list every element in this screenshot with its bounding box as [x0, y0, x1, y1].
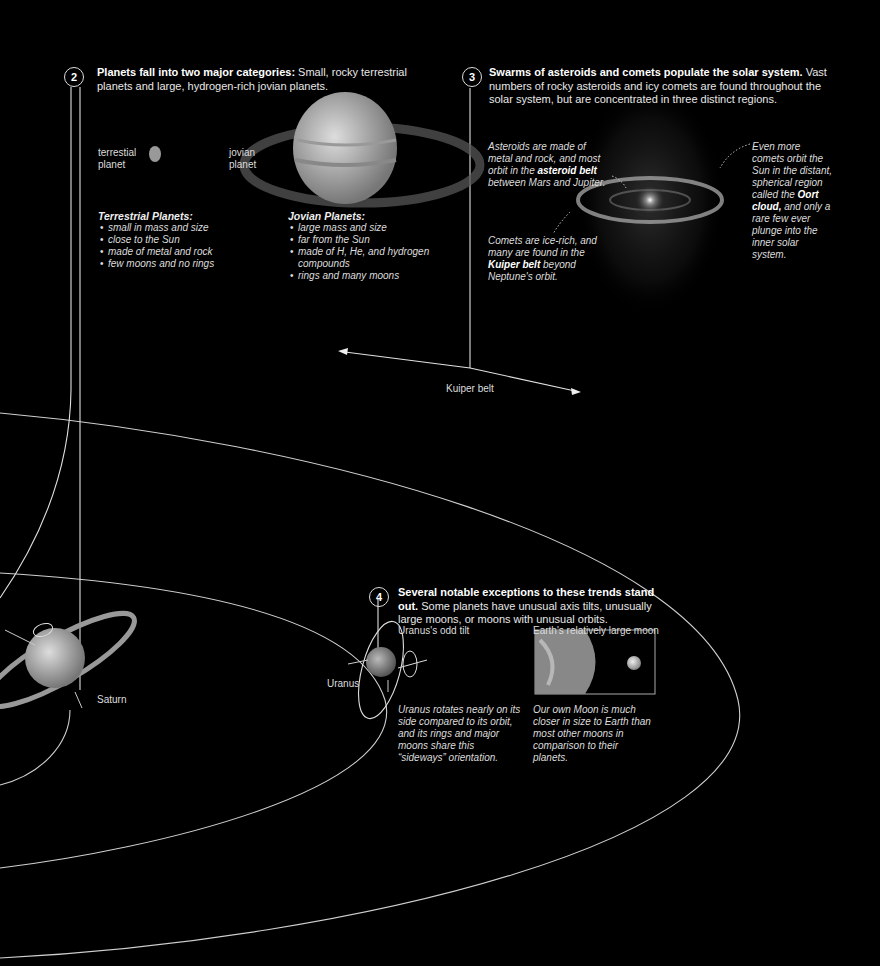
jovian-label-line2: planet [229, 159, 256, 171]
jovian-planet-label: jovian planet [229, 147, 256, 171]
step-number-4: 4 [369, 587, 389, 607]
section3-heading: Swarms of asteroids and comets populate … [489, 66, 829, 107]
list-item: close to the Sun [98, 234, 248, 246]
oort-cloud-caption: Even more comets orbit the Sun in the di… [752, 141, 834, 261]
orbit-uranus [0, 573, 387, 868]
section4-heading-text: Some planets have unusual axis tilts, un… [398, 600, 652, 626]
kuiper-belt-term: Kuiper belt [488, 259, 540, 270]
asteroid-belt-caption: Asteroids are made of metal and rock, an… [488, 141, 613, 189]
terrestrial-list: Terrestrial Planets: small in mass and s… [98, 210, 248, 270]
uranus-caption: Uranus rotates nearly on its side compar… [398, 704, 523, 764]
jovian-label-line1: jovian [229, 147, 256, 159]
jovian-list: Jovian Planets: large mass and size far … [288, 210, 448, 282]
earth-moon-caption: Our own Moon is much closer in size to E… [533, 704, 653, 764]
list-item: made of H, He, and hydrogen compounds [288, 246, 448, 270]
kuiper-belt-label: Kuiper belt [446, 383, 494, 395]
terrestrial-label-line2: planet [98, 159, 136, 171]
uranus-tilt-title: Uranus's odd tilt [398, 625, 469, 637]
list-item: small in mass and size [98, 222, 248, 234]
list-item: made of metal and rock [98, 246, 248, 258]
section2-heading-bold: Planets fall into two major categories: [97, 66, 295, 78]
terrestrial-label-line1: terrestial [98, 147, 136, 159]
step-number-2: 2 [64, 67, 84, 87]
list-item: far from the Sun [288, 234, 448, 246]
list-item: large mass and size [288, 222, 448, 234]
step-number-3: 3 [462, 67, 482, 87]
oort-caption-text: Even more comets orbit the Sun in the di… [752, 141, 832, 200]
list-item: few moons and no rings [98, 258, 248, 270]
section4-heading: Several notable exceptions to these tren… [398, 586, 660, 627]
jovian-list-title: Jovian Planets: [288, 210, 448, 222]
terrestrial-list-title: Terrestrial Planets: [98, 210, 248, 222]
orbit-diagram [0, 0, 880, 966]
section2-heading: Planets fall into two major categories: … [97, 66, 442, 93]
earth-moon-title: Earth's relatively large moon [533, 625, 659, 637]
terrestrial-planet-label: terrestial planet [98, 147, 136, 171]
list-item: rings and many moons [288, 270, 448, 282]
saturn-label: Saturn [97, 694, 126, 706]
comet-caption-text: Comets are ice-rich, and many are found … [488, 235, 597, 258]
section3-heading-bold: Swarms of asteroids and comets populate … [489, 66, 803, 78]
asteroid-caption-end: between Mars and Jupiter. [488, 177, 605, 188]
uranus-label: Uranus [327, 678, 359, 690]
kuiper-belt-caption: Comets are ice-rich, and many are found … [488, 235, 608, 283]
orbit-saturn [0, 710, 70, 785]
asteroid-belt-term: asteroid belt [537, 165, 596, 176]
